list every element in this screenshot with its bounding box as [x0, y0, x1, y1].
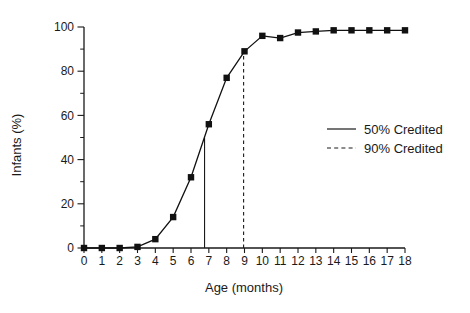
- infant-milestone-cumulative-chart: 020406080100 012345678910111213141516171…: [0, 0, 470, 313]
- legend-label-50-credited: 50% Credited: [364, 122, 443, 137]
- x-tick-label: 6: [188, 254, 195, 268]
- x-tick-label: 12: [291, 254, 305, 268]
- x-tick-label: 0: [81, 254, 88, 268]
- y-tick-label: 40: [61, 153, 75, 167]
- x-tick-label: 14: [327, 254, 341, 268]
- data-point-marker: [402, 27, 408, 33]
- y-tick-label: 80: [61, 64, 75, 78]
- x-tick-label: 7: [205, 254, 212, 268]
- data-point-marker: [206, 121, 212, 127]
- data-point-marker: [295, 29, 301, 35]
- x-tick-label: 8: [223, 254, 230, 268]
- data-point-marker: [152, 236, 158, 242]
- x-axis-ticks: 0123456789101112131415161718: [81, 248, 412, 268]
- series-curve: [84, 30, 405, 248]
- x-tick-label: 4: [152, 254, 159, 268]
- x-tick-label: 18: [398, 254, 412, 268]
- x-tick-label: 2: [116, 254, 123, 268]
- data-point-marker: [116, 245, 122, 251]
- data-point-marker: [348, 27, 354, 33]
- x-tick-label: 15: [345, 254, 359, 268]
- data-point-marker: [330, 27, 336, 33]
- y-tick-label: 0: [67, 241, 74, 255]
- data-point-marker: [99, 245, 105, 251]
- data-point-marker: [277, 35, 283, 41]
- y-tick-label: 100: [54, 20, 74, 34]
- data-series: [81, 27, 408, 251]
- x-tick-label: 1: [98, 254, 105, 268]
- legend: 50% Credited 90% Credited: [327, 122, 443, 156]
- x-tick-label: 10: [256, 254, 270, 268]
- x-tick-label: 13: [309, 254, 323, 268]
- axes: [84, 27, 405, 248]
- x-tick-label: 11: [274, 254, 287, 268]
- data-point-marker: [223, 75, 229, 81]
- x-tick-label: 9: [241, 254, 248, 268]
- x-tick-label: 5: [170, 254, 177, 268]
- chart-canvas: 020406080100 012345678910111213141516171…: [0, 0, 470, 313]
- x-tick-label: 16: [363, 254, 377, 268]
- data-point-marker: [134, 244, 140, 250]
- data-point-marker: [188, 174, 194, 180]
- x-tick-label: 3: [134, 254, 141, 268]
- y-axis-title: Infants (%): [9, 114, 24, 177]
- y-axis-ticks: 020406080100: [54, 20, 84, 255]
- data-point-marker: [81, 245, 87, 251]
- x-tick-label: 17: [380, 254, 394, 268]
- y-tick-label: 20: [61, 197, 75, 211]
- data-point-marker: [259, 33, 265, 39]
- y-tick-label: 60: [61, 109, 75, 123]
- legend-label-90-credited: 90% Credited: [364, 141, 443, 156]
- data-point-marker: [241, 48, 247, 54]
- data-point-marker: [313, 28, 319, 34]
- data-point-marker: [366, 27, 372, 33]
- data-point-marker: [384, 27, 390, 33]
- x-axis-title: Age (months): [205, 280, 283, 295]
- data-point-marker: [170, 214, 176, 220]
